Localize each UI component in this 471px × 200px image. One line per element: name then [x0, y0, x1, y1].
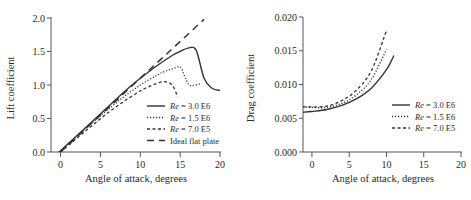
x-tick-label: 0: [58, 159, 63, 170]
x-tick-label: 15: [419, 159, 429, 170]
series-line-solid: [303, 56, 394, 113]
y-tick-label: 0.0: [33, 147, 46, 158]
legend: Re = 3.0 E6Re = 1.5 E6Re = 7.0 E5Ideal f…: [147, 101, 219, 146]
x-tick-label: 10: [135, 159, 145, 170]
lift-chart-canvas: 0.00.51.01.52.0 05101520 Angle of attack…: [0, 0, 236, 200]
x-tick-label: 5: [98, 159, 103, 170]
y-tick-label: 0.020: [275, 12, 298, 23]
x-ticks: 05101520: [58, 152, 225, 170]
y-tick-label: 1.5: [33, 46, 46, 57]
series-line-short-dashed: [303, 31, 387, 107]
x-axis-title: Angle of attack, degrees: [85, 173, 187, 184]
series-line-dotted: [303, 49, 387, 107]
drag-chart-canvas: 0.0000.0050.0100.0150.020 05101520 Angle…: [236, 0, 471, 200]
x-tick-label: 0: [309, 159, 314, 170]
x-tick-label: 20: [456, 159, 466, 170]
legend-label: Re = 3.0 E6: [414, 100, 455, 110]
legend-label: Ideal flat plate: [170, 136, 219, 146]
y-tick-label: 0.005: [275, 113, 298, 124]
y-tick-label: 2.0: [33, 13, 46, 24]
drag-coefficient-chart: 0.0000.0050.0100.0150.020 05101520 Angle…: [236, 0, 471, 200]
legend: Re = 3.0 E6Re = 1.5 E6Re = 7.0 E5: [392, 100, 455, 133]
plot-series: [303, 31, 394, 113]
x-tick-label: 15: [175, 159, 185, 170]
x-ticks: 05101520: [309, 152, 466, 170]
y-ticks: 0.0000.0050.0100.0150.020: [275, 12, 304, 158]
x-tick-label: 20: [215, 159, 225, 170]
x-axis-title: Angle of attack, degrees: [332, 173, 434, 184]
legend-label: Re = 1.5 E6: [414, 112, 455, 122]
x-tick-label: 10: [381, 159, 391, 170]
series-line-short-dashed: [53, 82, 178, 160]
y-tick-label: 0.015: [275, 45, 298, 56]
legend-label: Re = 1.5 E6: [169, 113, 210, 123]
y-axis-title: Drag coefficient: [245, 54, 256, 122]
legend-label: Re = 7.0 E5: [414, 123, 455, 133]
y-tick-label: 1.0: [33, 80, 46, 91]
x-tick-label: 5: [347, 159, 352, 170]
y-tick-label: 0.010: [275, 79, 298, 90]
y-ticks: 0.00.51.01.52.0: [33, 13, 52, 158]
y-tick-label: 0.000: [275, 147, 298, 158]
y-tick-label: 0.5: [33, 113, 46, 124]
y-axis-title: Lift coefficient: [5, 56, 16, 119]
lift-coefficient-chart: 0.00.51.01.52.0 05101520 Angle of attack…: [0, 0, 236, 200]
legend-label: Re = 7.0 E5: [169, 124, 210, 134]
legend-label: Re = 3.0 E6: [169, 101, 210, 111]
